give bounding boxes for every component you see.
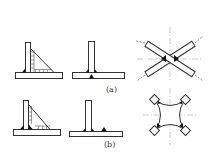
- stiffened-tee-joint-a: [16, 43, 63, 79]
- tee-joint-a: [73, 42, 125, 79]
- cruciform-plate: [143, 88, 198, 145]
- caption-b: (b): [104, 140, 115, 149]
- stiffened-tee-joint-b: [14, 101, 61, 136]
- tee-joint-offset-weld: [70, 101, 123, 137]
- caption-a: (a): [106, 85, 117, 94]
- crossed-bars-joint: [136, 27, 203, 82]
- welded-joints-diagram: [0, 0, 213, 163]
